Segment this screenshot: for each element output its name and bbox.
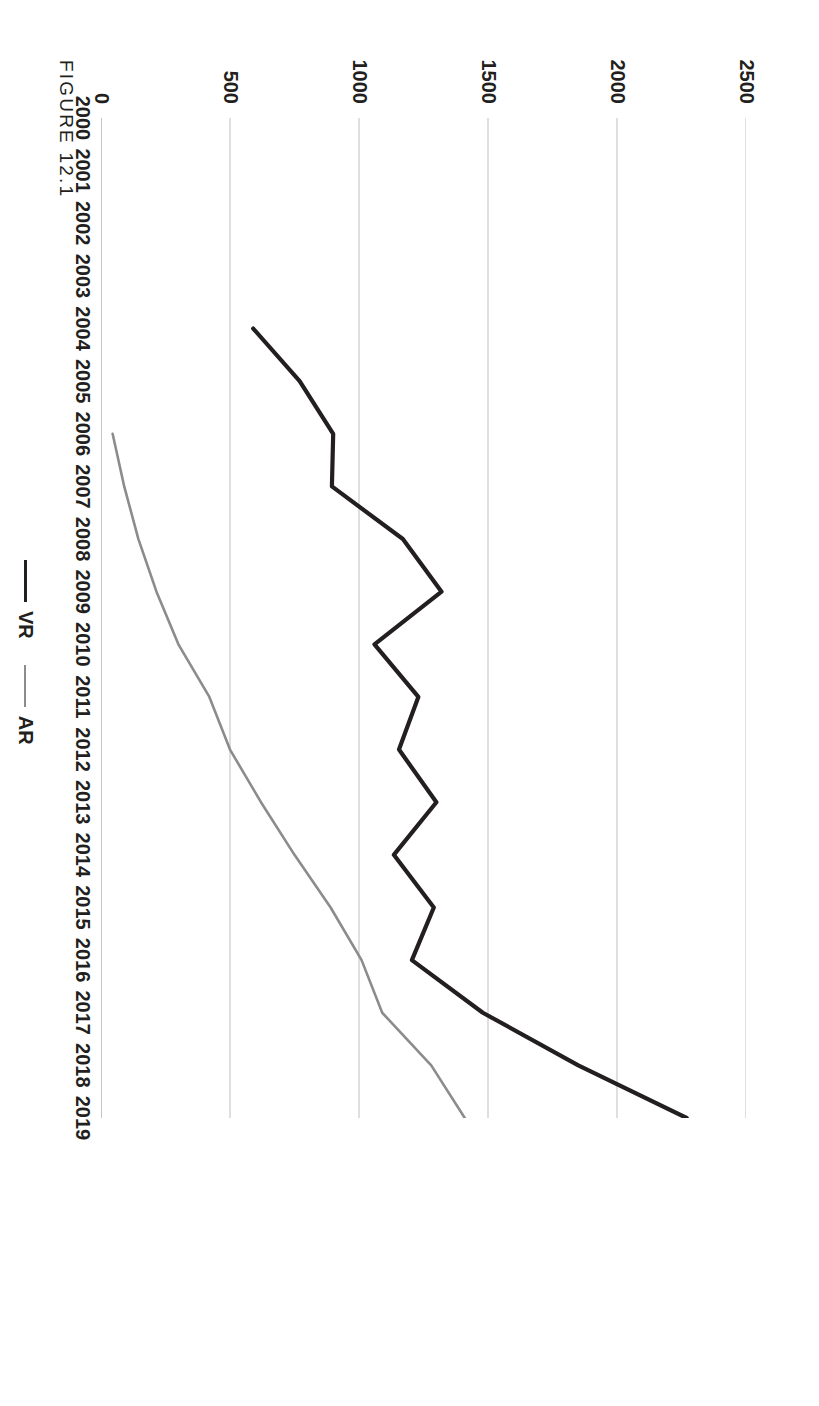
figure-page: FIGURE 12.1 05001000150020002500 2000200…	[0, 0, 819, 1406]
legend-swatch-icon-ar	[25, 665, 27, 707]
y-tick-label-2500: 2500	[735, 60, 758, 105]
line-chart	[101, 118, 746, 1118]
legend-item-ar: AR	[14, 665, 37, 745]
x-tick-label-2015: 2015	[71, 885, 94, 930]
y-tick-label-500: 500	[219, 71, 242, 104]
x-tick-label-2009: 2009	[71, 569, 94, 614]
x-tick-label-2004: 2004	[71, 306, 94, 351]
x-tick-label-2010: 2010	[71, 622, 94, 667]
x-tick-label-2003: 2003	[71, 254, 94, 299]
y-tick-label-2000: 2000	[606, 60, 629, 105]
x-tick-label-2016: 2016	[71, 938, 94, 983]
x-tick-label-2019: 2019	[71, 1096, 94, 1141]
x-tick-label-2002: 2002	[71, 201, 94, 246]
x-tick-label-2014: 2014	[71, 833, 94, 878]
x-tick-label-2012: 2012	[71, 727, 94, 772]
rotated-figure-canvas: FIGURE 12.1 05001000150020002500 2000200…	[0, 0, 819, 1406]
x-tick-label-2007: 2007	[71, 464, 94, 509]
y-tick-label-1000: 1000	[348, 60, 371, 105]
legend-swatch-icon-vr	[24, 560, 27, 602]
x-tick-label-2017: 2017	[71, 990, 94, 1035]
y-axis-tick-labels: 05001000150020002500	[101, 40, 746, 110]
x-tick-label-2018: 2018	[71, 1043, 94, 1088]
legend-item-vr: VR	[14, 560, 37, 639]
legend-label-ar: AR	[14, 716, 37, 745]
series-line-ar	[113, 434, 465, 1118]
x-axis-tick-labels: 2000200120022003200420052006200720082009…	[54, 118, 94, 1118]
x-tick-label-2001: 2001	[71, 148, 94, 193]
x-tick-label-2013: 2013	[71, 780, 94, 825]
legend-label-vr: VR	[14, 611, 37, 639]
x-tick-label-2005: 2005	[71, 359, 94, 404]
x-tick-label-2011: 2011	[71, 675, 94, 718]
x-tick-label-2008: 2008	[71, 517, 94, 562]
series-line-vr	[253, 329, 686, 1118]
y-tick-label-1500: 1500	[477, 60, 500, 105]
x-tick-label-2000: 2000	[71, 96, 94, 141]
chart-plot-area	[101, 118, 746, 1118]
chart-legend: VRAR	[14, 560, 37, 745]
x-tick-label-2006: 2006	[71, 412, 94, 457]
